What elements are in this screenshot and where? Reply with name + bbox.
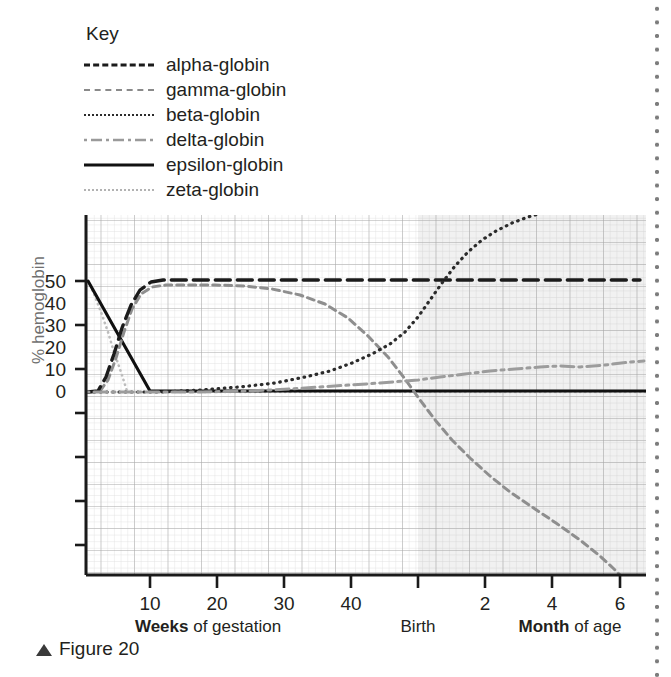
- x-axis-label-month-of-age: Month of age: [480, 618, 660, 636]
- x-axis-label-month-strong: Month: [519, 617, 570, 636]
- postnatal-shaded-region: [418, 215, 646, 575]
- hemoglobin-switching-chart: [0, 0, 671, 677]
- x-tick-label-week-20: 20: [197, 594, 237, 613]
- x-tick-label-month-4: 4: [532, 594, 572, 613]
- triangle-marker-icon: [36, 644, 52, 656]
- y-tick-label-10: 10: [26, 360, 66, 379]
- x-axis-label-birth: Birth: [378, 618, 458, 636]
- x-axis-ticks: [150, 575, 620, 588]
- figure-caption-text: Figure 20: [59, 638, 139, 659]
- x-axis-label-gestation-strong: Weeks: [135, 617, 189, 636]
- x-axis-label-month-rest: of age: [569, 617, 621, 636]
- x-tick-label-week-30: 30: [264, 594, 304, 613]
- x-tick-label-month-6: 6: [600, 594, 640, 613]
- y-axis-ticks: [75, 281, 86, 545]
- x-axis-label-gestation: Weeks of gestation: [88, 618, 328, 636]
- y-tick-label-0: 0: [26, 382, 66, 401]
- x-tick-label-week-10: 10: [130, 594, 170, 613]
- y-tick-label-30: 30: [26, 316, 66, 335]
- x-tick-label-month-2: 2: [465, 594, 505, 613]
- chart-plot-area: % hemoglobin 50 40 30 20 10 0 10 20 30 4…: [0, 0, 671, 677]
- y-tick-label-20: 20: [26, 338, 66, 357]
- figure-caption: Figure 20: [36, 638, 139, 660]
- x-tick-label-week-40: 40: [331, 594, 371, 613]
- y-tick-label-50: 50: [26, 272, 66, 291]
- y-tick-label-40: 40: [26, 294, 66, 313]
- figure-20: Key alpha-globin gamma-globin beta-globi…: [0, 0, 671, 677]
- x-axis-label-gestation-rest: of gestation: [188, 617, 281, 636]
